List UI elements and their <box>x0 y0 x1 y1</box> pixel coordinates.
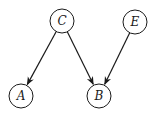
dag-diagram: CEAB <box>0 0 157 115</box>
edges-group <box>27 32 130 85</box>
node-e: E <box>123 10 147 34</box>
edge-e-to-b <box>105 33 130 85</box>
node-label: A <box>16 89 26 103</box>
node-label: E <box>130 15 140 29</box>
edge-c-to-a <box>27 32 56 85</box>
node-c: C <box>50 9 74 33</box>
node-label: B <box>94 89 104 103</box>
node-b: B <box>87 84 111 108</box>
node-a: A <box>9 84 33 108</box>
nodes-group: CEAB <box>9 9 147 108</box>
edge-c-to-b <box>67 32 93 85</box>
node-label: C <box>57 14 66 28</box>
